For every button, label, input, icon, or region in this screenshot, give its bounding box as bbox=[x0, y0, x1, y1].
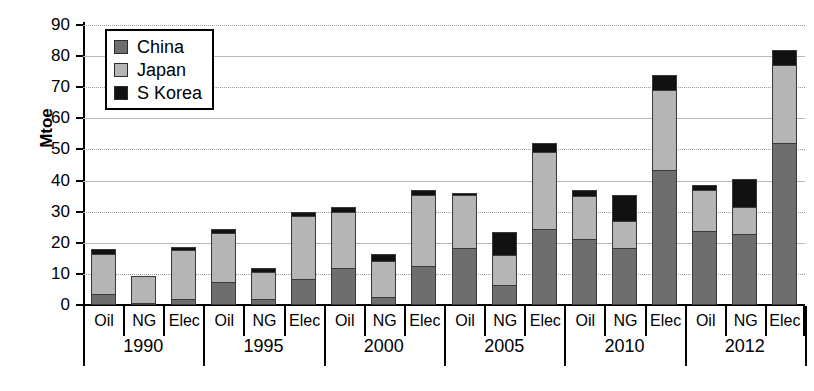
y-tick-label: 50 bbox=[28, 140, 70, 157]
bar-segment-japan bbox=[453, 196, 476, 249]
bar-segment-china bbox=[412, 267, 435, 304]
bar-segment-s-korea bbox=[733, 180, 756, 208]
bar-2000-elec bbox=[411, 190, 436, 305]
bar-2005-elec bbox=[532, 143, 557, 305]
bar-segment-s-korea bbox=[653, 76, 676, 91]
bar-2010-ng bbox=[612, 195, 637, 305]
bar-2010-elec bbox=[652, 75, 677, 305]
bar-segment-japan bbox=[653, 91, 676, 171]
bar-2000-ng bbox=[371, 254, 396, 305]
bar-1995-ng bbox=[251, 268, 276, 305]
year-label-2005: 2005 bbox=[444, 336, 564, 366]
category-label-elec: Elec bbox=[524, 306, 564, 336]
y-tick-label: 90 bbox=[28, 16, 70, 33]
y-axis-title: Mtoe bbox=[37, 83, 57, 173]
bar-segment-japan bbox=[372, 262, 395, 298]
bar-segment-japan bbox=[693, 191, 716, 232]
category-label-elec: Elec bbox=[765, 306, 805, 336]
bar-1990-ng bbox=[131, 276, 156, 305]
bar-segment-s-korea bbox=[372, 255, 395, 262]
category-label-elec: Elec bbox=[284, 306, 324, 336]
year-separator bbox=[203, 306, 205, 366]
bar-segment-japan bbox=[733, 208, 756, 236]
stacked-bar-chart: Mtoe 0102030405060708090 OilNGElecOilNGE… bbox=[0, 0, 814, 391]
bar-2010-oil bbox=[572, 190, 597, 305]
bar-segment-japan bbox=[493, 256, 516, 286]
y-tick-label: 70 bbox=[28, 78, 70, 95]
bar-segment-china bbox=[92, 295, 115, 304]
legend-label-china: China bbox=[137, 38, 184, 56]
year-label-1995: 1995 bbox=[203, 336, 323, 366]
bar-segment-s-korea bbox=[493, 233, 516, 256]
bar-segment-china bbox=[292, 280, 315, 304]
bar-segment-japan bbox=[573, 197, 596, 240]
bar-segment-s-korea bbox=[533, 144, 556, 153]
y-tick-label: 30 bbox=[28, 203, 70, 220]
bar-segment-china bbox=[493, 286, 516, 304]
bar-segment-s-korea bbox=[773, 51, 796, 66]
bar-1990-oil bbox=[91, 249, 116, 305]
category-label-oil: Oil bbox=[83, 306, 123, 336]
y-tick-label: 40 bbox=[28, 172, 70, 189]
year-separator bbox=[805, 306, 807, 366]
bar-segment-china bbox=[573, 240, 596, 304]
y-tick-label: 10 bbox=[28, 265, 70, 282]
year-label-2012: 2012 bbox=[685, 336, 805, 366]
category-label-ng: NG bbox=[725, 306, 765, 336]
legend-item-japan: Japan bbox=[114, 58, 202, 81]
year-separator bbox=[324, 306, 326, 366]
bar-2000-oil bbox=[331, 207, 356, 305]
y-tick-label: 60 bbox=[28, 109, 70, 126]
year-label-1990: 1990 bbox=[83, 336, 203, 366]
bar-segment-japan bbox=[292, 217, 315, 279]
bar-segment-japan bbox=[172, 251, 195, 299]
bar-segment-china bbox=[613, 249, 636, 304]
year-label-2000: 2000 bbox=[324, 336, 444, 366]
gridline bbox=[83, 118, 805, 120]
year-label-2010: 2010 bbox=[564, 336, 684, 366]
category-label-oil: Oil bbox=[444, 306, 484, 336]
legend-swatch-skorea-icon bbox=[114, 86, 128, 100]
bar-segment-japan bbox=[92, 255, 115, 296]
bar-1995-elec bbox=[291, 212, 316, 305]
bar-segment-china bbox=[372, 298, 395, 304]
bar-segment-china bbox=[773, 144, 796, 305]
category-label-ng: NG bbox=[123, 306, 163, 336]
bar-segment-china bbox=[693, 232, 716, 304]
gridline bbox=[83, 25, 805, 27]
bar-segment-japan bbox=[332, 213, 355, 269]
bar-segment-china bbox=[332, 269, 355, 304]
bar-segment-china bbox=[172, 300, 195, 305]
bar-segment-china bbox=[733, 235, 756, 304]
bar-segment-japan bbox=[533, 153, 556, 230]
bar-segment-japan bbox=[613, 222, 636, 249]
bar-2012-elec bbox=[772, 50, 797, 305]
bar-2012-oil bbox=[692, 185, 717, 305]
category-label-ng: NG bbox=[604, 306, 644, 336]
legend-swatch-china-icon bbox=[114, 40, 128, 54]
year-separator bbox=[83, 306, 85, 366]
gridline bbox=[83, 181, 805, 183]
bar-2005-oil bbox=[452, 193, 477, 305]
legend-swatch-japan-icon bbox=[114, 63, 128, 77]
y-tick-label: 80 bbox=[28, 47, 70, 64]
bar-segment-china bbox=[212, 283, 235, 304]
bar-1990-elec bbox=[171, 247, 196, 305]
category-label-oil: Oil bbox=[564, 306, 604, 336]
category-label-oil: Oil bbox=[203, 306, 243, 336]
category-label-ng: NG bbox=[243, 306, 283, 336]
bar-segment-china bbox=[252, 300, 275, 304]
y-tick-label: 20 bbox=[28, 234, 70, 251]
bar-segment-s-korea bbox=[613, 196, 636, 222]
year-separator bbox=[444, 306, 446, 366]
category-label-oil: Oil bbox=[324, 306, 364, 336]
bar-segment-japan bbox=[412, 196, 435, 268]
legend-item-skorea: S Korea bbox=[114, 81, 202, 104]
bar-1995-oil bbox=[211, 229, 236, 305]
category-label-elec: Elec bbox=[404, 306, 444, 336]
bar-segment-japan bbox=[773, 66, 796, 143]
category-label-elec: Elec bbox=[163, 306, 203, 336]
legend-item-china: China bbox=[114, 35, 202, 58]
gridline bbox=[83, 149, 805, 151]
bar-2012-ng bbox=[732, 179, 757, 305]
